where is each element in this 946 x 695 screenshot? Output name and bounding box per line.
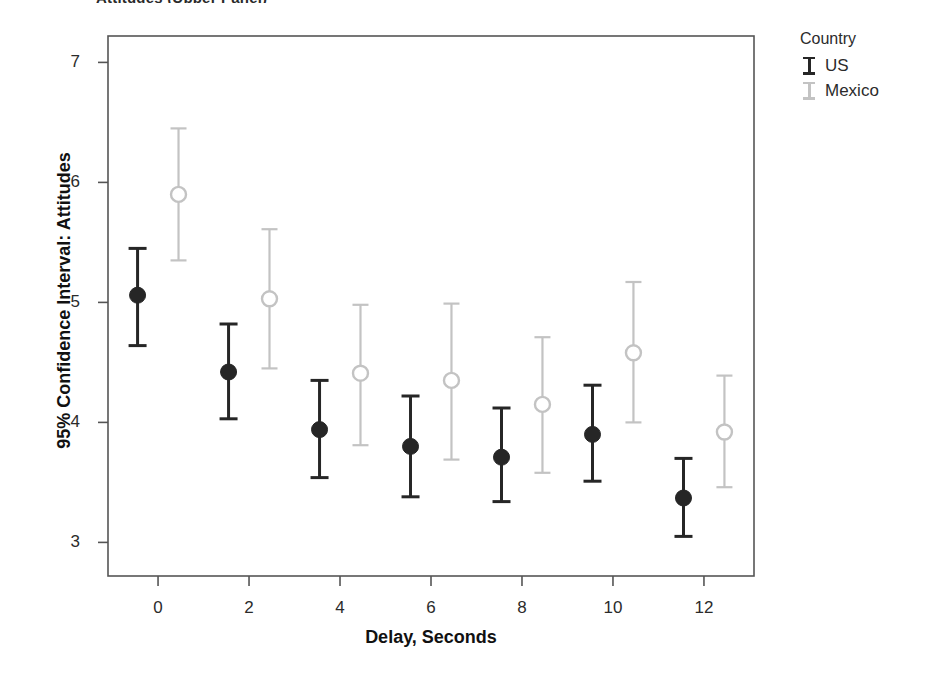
legend-key-part bbox=[803, 97, 815, 100]
data-point-marker bbox=[535, 397, 550, 412]
legend-errorbar-icon bbox=[800, 80, 818, 102]
legend-entry-mexico: Mexico bbox=[800, 78, 940, 103]
data-point-marker bbox=[626, 345, 641, 360]
legend-key-part bbox=[803, 72, 815, 75]
series-us bbox=[129, 248, 693, 536]
data-point-marker bbox=[130, 287, 146, 303]
data-point-marker bbox=[585, 426, 601, 442]
legend-errorbar-icon bbox=[800, 55, 818, 77]
data-point-marker bbox=[221, 364, 237, 380]
data-point-marker bbox=[353, 366, 368, 381]
data-point-marker bbox=[312, 422, 328, 438]
data-point-marker bbox=[403, 438, 419, 454]
legend-title: Country bbox=[800, 30, 940, 48]
data-point-marker bbox=[717, 425, 732, 440]
legend-label: Mexico bbox=[825, 81, 879, 101]
legend-entries: USMexico bbox=[800, 53, 940, 103]
plot-frame bbox=[108, 36, 754, 576]
data-point-marker bbox=[494, 449, 510, 465]
legend-label: US bbox=[825, 56, 849, 76]
legend-entry-us: US bbox=[800, 53, 940, 78]
data-point-marker bbox=[675, 490, 691, 506]
plot-area bbox=[0, 0, 946, 695]
data-point-marker bbox=[262, 291, 277, 306]
chart-figure: Attitudes (Upper Panel) 95% Confidence I… bbox=[0, 0, 946, 695]
series-mexico bbox=[171, 128, 733, 487]
legend: Country USMexico bbox=[800, 30, 940, 103]
data-point-marker bbox=[444, 373, 459, 388]
data-point-marker bbox=[171, 187, 186, 202]
